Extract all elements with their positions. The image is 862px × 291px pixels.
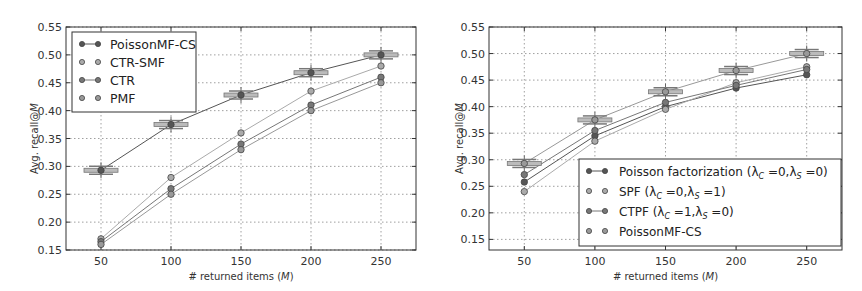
y-tick-label: 0.45	[461, 74, 486, 87]
x-tick-label: 150	[655, 255, 676, 268]
y-tick-label: 0.25	[38, 188, 63, 201]
x-tick-label: 200	[301, 255, 322, 268]
x-tick-label: 100	[161, 255, 182, 268]
y-axis-label: Avg. recall@M	[454, 103, 465, 174]
chart-panel-right: 0.150.200.250.300.350.400.450.500.555010…	[454, 21, 842, 282]
legend: Poisson factorization (λC =0,λS =0)SPF (…	[579, 159, 841, 246]
y-tick-label: 0.35	[38, 133, 63, 146]
legend-label: CTPF (λC =1,λS =0)	[619, 205, 734, 221]
x-tick-label: 50	[94, 255, 108, 268]
y-tick-label: 0.55	[461, 21, 486, 34]
legend-label: SPF (λC =0,λS =1)	[619, 185, 726, 201]
y-tick-label: 0.50	[38, 49, 63, 62]
figure: 0.150.200.250.300.350.400.450.500.555010…	[0, 0, 862, 291]
y-tick-label: 0.40	[38, 105, 63, 118]
y-tick-label: 0.20	[461, 207, 486, 220]
y-tick-label: 0.50	[461, 48, 486, 61]
x-tick-label: 250	[796, 255, 817, 268]
y-tick-label: 0.45	[38, 77, 63, 90]
y-tick-label: 0.25	[461, 180, 486, 193]
legend-label: PoissonMF-CS	[619, 225, 702, 239]
legend: PoissonMF-CSCTR-SMFCTRPMF	[72, 32, 196, 112]
x-tick-label: 150	[231, 255, 252, 268]
x-tick-label: 50	[517, 255, 531, 268]
x-tick-label: 200	[726, 255, 747, 268]
legend-label: Poisson factorization (λC =0,λS =0)	[619, 165, 828, 181]
x-axis-label: # returned items (M)	[188, 271, 293, 282]
legend-item: Poisson factorization (λC =0,λS =0)	[586, 165, 827, 181]
legend-label: CTR	[110, 73, 135, 88]
x-tick-label: 100	[584, 255, 605, 268]
chart-panel-left: 0.150.200.250.300.350.400.450.500.555010…	[29, 21, 416, 282]
legend-label: PoissonMF-CS	[110, 37, 196, 52]
y-tick-label: 0.20	[38, 216, 63, 229]
y-tick-label: 0.15	[461, 233, 486, 246]
legend-label: PMF	[110, 91, 136, 106]
y-axis-label: Avg. recall@M	[29, 103, 40, 174]
y-tick-label: 0.55	[38, 21, 63, 34]
x-tick-label: 250	[371, 255, 392, 268]
y-tick-label: 0.15	[38, 244, 63, 257]
legend-label: CTR-SMF	[110, 55, 165, 70]
x-axis-label: # returned items (M)	[613, 271, 718, 282]
y-tick-label: 0.30	[38, 160, 63, 173]
